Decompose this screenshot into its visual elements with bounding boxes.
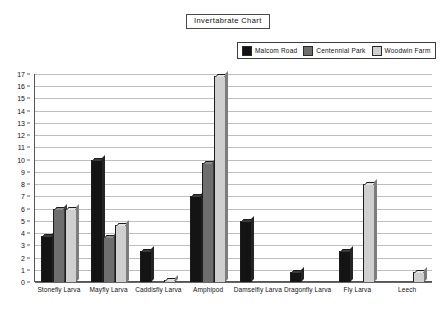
- x-axis-tick-label: Caddisfly Larva: [135, 286, 181, 293]
- y-axis-tick-label: 10: [17, 156, 25, 163]
- bar: [103, 237, 115, 282]
- bar: [53, 209, 65, 282]
- y-axis-tick: [27, 159, 30, 160]
- bar-group: [283, 74, 333, 282]
- bar: [290, 272, 302, 282]
- bar-group: [233, 74, 283, 282]
- y-axis-tick: [27, 220, 30, 221]
- y-axis: 01234567891011121314151617: [0, 74, 30, 282]
- y-axis-tick: [27, 196, 30, 197]
- y-axis-tick: [27, 282, 30, 283]
- x-axis-tick-label: Dragonfly Larva: [284, 286, 331, 293]
- legend-swatch-icon: [303, 46, 313, 56]
- y-axis-tick-label: 4: [21, 230, 25, 237]
- bar: [339, 251, 351, 282]
- y-axis-tick: [27, 184, 30, 185]
- x-axis-tick-label: Amphipod: [193, 286, 223, 293]
- y-axis-tick: [27, 135, 30, 136]
- bars-layer: [34, 74, 432, 282]
- y-axis-tick: [27, 86, 30, 87]
- y-axis-tick: [27, 245, 30, 246]
- bar: [214, 76, 226, 282]
- gridline: [35, 282, 432, 283]
- bar-group: [382, 74, 432, 282]
- x-axis-tick-label: Mayfly Larva: [90, 286, 128, 293]
- legend-entry: Malcom Road: [242, 46, 297, 56]
- y-axis-tick: [27, 98, 30, 99]
- bar-group: [134, 74, 184, 282]
- y-axis-tick-label: 5: [21, 217, 25, 224]
- legend-label: Centennial Park: [316, 47, 365, 54]
- chart-legend: Malcom RoadCentennial ParkWoodwin Farm: [237, 42, 436, 59]
- y-axis-tick-label: 17: [17, 71, 25, 78]
- legend-label: Woodwin Farm: [385, 47, 431, 54]
- y-axis-tick-label: 16: [17, 83, 25, 90]
- y-axis-tick: [27, 208, 30, 209]
- x-axis: Stonefly LarvaMayfly LarvaCaddisfly Larv…: [34, 286, 432, 300]
- bar-group: [84, 74, 134, 282]
- y-axis-tick: [27, 233, 30, 234]
- y-axis-tick: [27, 171, 30, 172]
- bar-group: [34, 74, 84, 282]
- y-axis-tick: [27, 74, 30, 75]
- x-axis-tick-label: Fly Larva: [344, 286, 372, 293]
- x-axis-tick-label: Leech: [398, 286, 416, 293]
- bar: [91, 160, 103, 282]
- x-axis-tick-label: Damselfly Larva: [234, 286, 282, 293]
- y-axis-tick-label: 13: [17, 119, 25, 126]
- y-axis-tick-label: 1: [21, 266, 25, 273]
- bar: [240, 221, 252, 282]
- y-axis-tick-label: 2: [21, 254, 25, 261]
- y-axis-tick-label: 11: [18, 144, 25, 151]
- y-axis-tick: [27, 110, 30, 111]
- y-axis-tick-label: 3: [21, 242, 25, 249]
- legend-swatch-icon: [372, 46, 382, 56]
- y-axis-tick: [27, 257, 30, 258]
- y-axis-tick-label: 7: [21, 193, 25, 200]
- y-axis-tick-label: 12: [17, 132, 25, 139]
- bar: [363, 184, 375, 282]
- bar: [413, 272, 425, 282]
- y-axis-tick-label: 0: [21, 279, 25, 286]
- bar: [115, 225, 127, 283]
- y-axis-tick-label: 14: [17, 107, 25, 114]
- chart-title: Invertabrate Chart: [186, 14, 270, 29]
- y-axis-tick-label: 9: [21, 168, 25, 175]
- bar-group: [183, 74, 233, 282]
- legend-label: Malcom Road: [255, 47, 297, 54]
- x-axis-tick-label: Stonefly Larva: [37, 286, 80, 293]
- bar: [164, 280, 176, 282]
- y-axis-tick-label: 15: [17, 95, 25, 102]
- bar: [202, 163, 214, 282]
- bar: [140, 251, 152, 282]
- legend-swatch-icon: [242, 46, 252, 56]
- legend-entry: Woodwin Farm: [372, 46, 431, 56]
- y-axis-tick: [27, 122, 30, 123]
- y-axis-tick: [27, 269, 30, 270]
- y-axis-tick: [27, 147, 30, 148]
- bar: [190, 196, 202, 282]
- y-axis-tick-label: 6: [21, 205, 25, 212]
- invertebrate-bar-chart: Invertabrate Chart Malcom RoadCentennial…: [0, 0, 446, 321]
- bar: [65, 209, 77, 282]
- y-axis-tick-label: 8: [21, 181, 25, 188]
- legend-entry: Centennial Park: [303, 46, 365, 56]
- bar-group: [333, 74, 383, 282]
- bar: [41, 236, 53, 282]
